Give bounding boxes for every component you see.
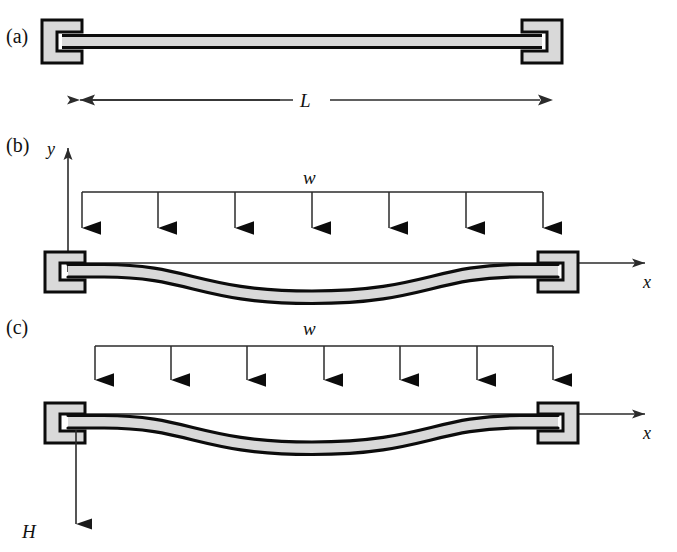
span-dimension-label: L [299,90,311,111]
figure-canvas: (a) L (b) y [0,0,677,552]
load-label-b: w [303,167,316,188]
panel-a-label: (a) [6,25,28,48]
panel-b-label: (b) [6,134,29,157]
axis-x-label-c: x [642,423,651,443]
axis-y-label: y [45,139,55,159]
axis-x-label-b: x [642,272,651,292]
load-label-c: w [303,318,316,339]
panel-c-label: (c) [6,316,28,339]
reaction-force-label: H [21,521,37,542]
beam-a [62,35,542,48]
beam-diagram-figure: (a) L (b) y [0,0,677,552]
